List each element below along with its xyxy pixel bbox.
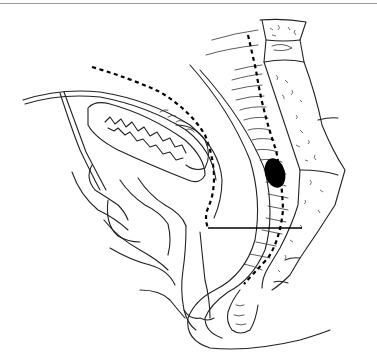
mesorectal-striations xyxy=(206,30,288,270)
tumour-mass xyxy=(261,156,288,190)
pelvis-diagram xyxy=(0,0,377,359)
pelvic-floor-organs xyxy=(72,165,214,330)
peritoneal-reflection-line xyxy=(92,67,214,228)
anterior-organs xyxy=(23,91,222,218)
